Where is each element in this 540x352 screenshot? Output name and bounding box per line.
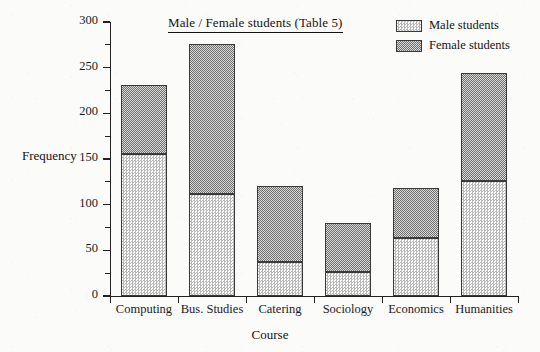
x-tick-5 [450, 296, 451, 303]
bar-humanities [461, 73, 507, 296]
x-category-label-0: Computing [110, 303, 178, 317]
x-tick-0 [110, 296, 111, 303]
y-axis-title: Frequency [22, 148, 77, 164]
legend-swatch-male-icon [396, 20, 422, 32]
bar-economics [393, 188, 439, 296]
y-minor-tick-275 [105, 44, 110, 45]
chart-figure: 050100150200250300 ComputingBus. Studies… [0, 0, 540, 352]
y-minor-tick-25 [105, 273, 110, 274]
legend-swatch-female-icon [396, 40, 422, 52]
x-tick-1 [178, 296, 179, 303]
y-tick-200 [103, 113, 110, 114]
y-tick-label-300: 300 [79, 14, 98, 27]
bar-segment-female [393, 188, 439, 238]
x-tick-2 [246, 296, 247, 303]
y-tick-label-100: 100 [79, 197, 98, 210]
x-category-label-1: Bus. Studies [178, 303, 246, 317]
y-tick-label-200: 200 [79, 105, 98, 118]
y-tick-250 [103, 67, 110, 68]
chart-legend: Male students Female students [396, 17, 510, 57]
y-tick-50 [103, 250, 110, 251]
y-tick-label-0: 0 [92, 288, 98, 301]
x-tick-3 [314, 296, 315, 303]
x-category-label-3: Sociology [314, 303, 382, 317]
y-tick-0 [103, 295, 110, 296]
y-tick-300 [103, 21, 110, 22]
bar-segment-male [393, 238, 439, 296]
bar-segment-male [189, 194, 235, 296]
y-minor-tick-125 [105, 181, 110, 182]
bar-segment-female [461, 73, 507, 181]
x-axis-title: Course [0, 327, 540, 343]
bar-bus-studies [189, 44, 235, 296]
y-tick-label-250: 250 [79, 60, 98, 73]
legend-label-female: Female students [429, 38, 510, 53]
bar-segment-male [325, 272, 371, 296]
y-tick-label-50: 50 [86, 242, 99, 255]
legend-item-female: Female students [396, 37, 510, 54]
bar-segment-female [257, 186, 303, 262]
bar-segment-female [325, 223, 371, 272]
bar-segment-female [121, 85, 167, 154]
x-tick-6 [518, 296, 519, 303]
legend-label-male: Male students [429, 18, 499, 33]
legend-item-male: Male students [396, 17, 510, 34]
x-category-label-4: Economics [382, 303, 450, 317]
y-axis-line [110, 22, 111, 297]
bar-segment-male [461, 181, 507, 296]
chart-title: Male / Female students (Table 5) [168, 15, 343, 33]
x-tick-4 [382, 296, 383, 303]
y-tick-label-150: 150 [79, 151, 98, 164]
y-tick-100 [103, 204, 110, 205]
bar-catering [257, 186, 303, 296]
bar-segment-female [189, 44, 235, 194]
x-category-label-2: Catering [246, 303, 314, 317]
bar-computing [121, 85, 167, 296]
bar-segment-male [257, 262, 303, 296]
bar-segment-male [121, 154, 167, 296]
x-category-label-5: Humanities [450, 303, 518, 317]
y-minor-tick-225 [105, 90, 110, 91]
y-tick-150 [103, 158, 110, 159]
y-minor-tick-175 [105, 136, 110, 137]
y-minor-tick-75 [105, 227, 110, 228]
bar-sociology [325, 223, 371, 296]
